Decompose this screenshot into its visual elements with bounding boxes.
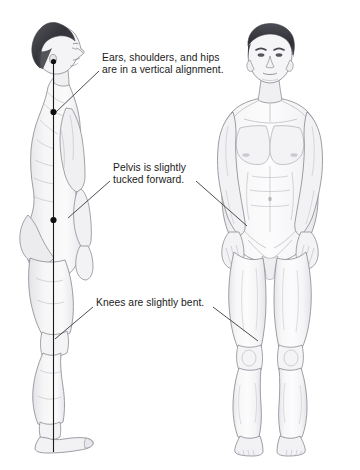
callout-pelvis-line1: Pelvis is slightly <box>113 162 186 173</box>
callout-pelvis-line2: tucked forward. <box>113 174 186 186</box>
callout-alignment-line1: Ears, shoulders, and hips <box>102 52 219 63</box>
anterior-nipple-right <box>290 153 297 157</box>
lateral-hand <box>76 246 93 280</box>
anterior-eye-left <box>258 53 265 57</box>
callout-pelvis: Pelvis is slightly tucked forward. <box>113 162 186 187</box>
callout-knees: Knees are slightly bent. <box>96 297 204 309</box>
lateral-calf <box>33 353 65 426</box>
anterior-neck <box>258 80 282 103</box>
anterior-pectoral-right <box>270 126 304 165</box>
posture-illustration-page: Ears, shoulders, and hips are in a verti… <box>0 0 360 470</box>
callout-knees-line1: Knees are slightly bent. <box>96 297 204 308</box>
anterior-navel <box>268 197 271 201</box>
lateral-hip-marker <box>50 217 56 223</box>
anterior-nipple-left <box>242 153 249 157</box>
lateral-shoulder-marker <box>50 109 56 115</box>
callout-alignment: Ears, shoulders, and hips are in a verti… <box>102 52 224 77</box>
callout-alignment-line2: are in a vertical alignment. <box>102 64 224 76</box>
lateral-ear-marker <box>51 59 56 64</box>
anterior-view-male-figure <box>218 23 323 456</box>
anterior-thigh-left <box>229 252 266 350</box>
anterior-pectoral-left <box>236 126 270 165</box>
anterior-thigh-right <box>274 252 311 350</box>
lateral-knee <box>41 331 69 357</box>
anterior-calf-left <box>233 368 261 439</box>
anterior-calf-right <box>279 368 307 439</box>
anterior-eye-right <box>276 53 283 57</box>
lateral-thigh <box>29 258 74 338</box>
